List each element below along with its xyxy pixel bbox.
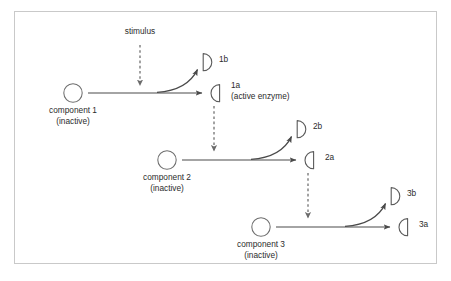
product-2b-label: 2b — [313, 121, 322, 132]
stage-1-group — [64, 45, 220, 151]
component-1-label: component 1 (inactive) — [49, 105, 97, 127]
stage-3-group — [252, 188, 408, 237]
component-2-label-line1: component 2 — [143, 172, 191, 183]
component-3-branch-arrow — [345, 204, 386, 227]
component-2-label: component 2 (inactive) — [143, 172, 191, 194]
product-2a-label: 2a — [325, 152, 334, 163]
product-1b-glyph — [203, 54, 212, 71]
component-2-circle — [158, 151, 176, 169]
product-1a-label-group: 1a (active enzyme) — [231, 80, 290, 102]
product-3b-label: 3b — [407, 188, 416, 199]
figure-canvas: stimulus component 1 (inactive) 1b 1a (a… — [0, 0, 451, 281]
product-3a-glyph — [399, 219, 408, 236]
component-1-circle — [64, 84, 82, 102]
stage-2-group — [158, 121, 314, 218]
component-2-label-line2: (inactive) — [143, 183, 191, 194]
component-1-label-line2: (inactive) — [49, 116, 97, 127]
component-3-label-line2: (inactive) — [237, 250, 285, 261]
cascade-diagram-graphics — [0, 0, 451, 281]
product-3b-glyph — [391, 188, 400, 205]
component-1-branch-arrow — [157, 70, 198, 93]
product-1a-note: (active enzyme) — [231, 91, 290, 102]
component-3-circle — [252, 218, 270, 236]
component-2-branch-arrow — [251, 137, 292, 160]
component-3-label: component 3 (inactive) — [237, 239, 285, 261]
product-3a-label: 3a — [419, 219, 428, 230]
product-1a-glyph — [211, 85, 220, 102]
component-3-label-line1: component 3 — [237, 239, 285, 250]
product-1b-label: 1b — [219, 54, 228, 65]
product-2a-glyph — [305, 152, 314, 169]
product-2b-glyph — [297, 121, 306, 138]
product-1a-label: 1a — [231, 80, 290, 91]
component-1-label-line1: component 1 — [49, 105, 97, 116]
stimulus-label: stimulus — [125, 26, 155, 37]
